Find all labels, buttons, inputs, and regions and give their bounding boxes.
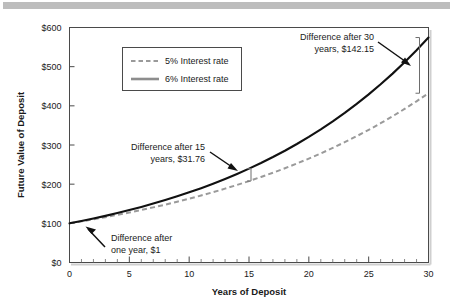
y-tick-label-4: $400 [41, 101, 61, 111]
x-tick-label-3: 15 [244, 269, 254, 279]
y-tick-label-1: $100 [41, 219, 61, 229]
difference-brackets [247, 38, 420, 182]
legend-box [123, 48, 242, 91]
annotation-1-line2: one year, $1 [111, 245, 161, 255]
x-tick-label-0: 0 [67, 269, 72, 279]
legend-label-6-percent: 6% Interest rate [165, 74, 229, 84]
bracket-15-years [247, 169, 251, 181]
legend-label-5-percent: 5% Interest rate [165, 56, 229, 66]
x-tick-label-1: 5 [127, 269, 132, 279]
annotation-diff-15-years: Difference after 15 years, $31.76 [131, 142, 238, 171]
y-tick-label-0: $0 [51, 258, 61, 268]
x-tick-label-2: 10 [184, 269, 194, 279]
x-tick-label-5: 25 [364, 269, 374, 279]
y-tick-label-3: $300 [41, 141, 61, 151]
figure-container: $0$100$200$300$400$500$600 051015202530 … [0, 0, 453, 307]
annotation-30-line1: Difference after 30 [300, 32, 374, 42]
x-tick-label-6: 30 [423, 269, 433, 279]
y-axis-title: Future Value of Deposit [15, 91, 26, 198]
legend: 5% Interest rate 6% Interest rate [123, 48, 242, 91]
annotation-diff-one-year: Difference after one year, $1 [86, 227, 173, 256]
y-tick-label-6: $600 [41, 23, 61, 33]
annotation-1-line1: Difference after [111, 233, 172, 243]
series-line-5-percent [70, 93, 429, 223]
x-tick-label-4: 20 [304, 269, 314, 279]
y-tick-label-2: $200 [41, 180, 61, 190]
x-axis: 051015202530 [67, 257, 434, 279]
y-tick-label-5: $500 [41, 62, 61, 72]
annotation-diff-30-years: Difference after 30 years, $142.15 [300, 32, 411, 66]
annotation-15-line1: Difference after 15 [131, 142, 205, 152]
annotation-30-line2: years, $142.15 [314, 44, 374, 54]
x-axis-title: Years of Deposit [212, 286, 287, 297]
line-chart: $0$100$200$300$400$500$600 051015202530 … [0, 0, 453, 307]
annotation-15-line2: years, $31.76 [150, 154, 205, 164]
bracket-30-years [416, 38, 420, 94]
annotation-1-arrowhead [86, 227, 97, 235]
